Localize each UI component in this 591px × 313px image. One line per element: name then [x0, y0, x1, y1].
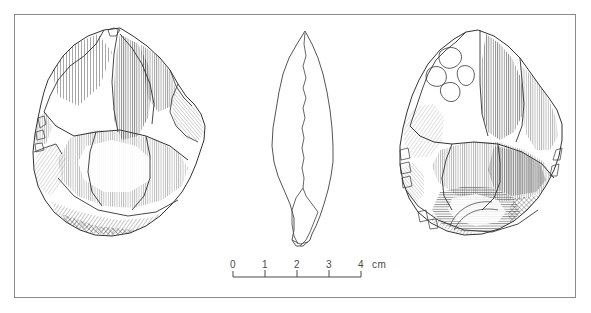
- figure-plate: 0 1 2 3 4 cm: [0, 0, 591, 313]
- scale-unit-label: cm: [372, 259, 386, 270]
- scale-tick-0: 0: [230, 259, 236, 270]
- scale-tick-2: 2: [294, 259, 300, 270]
- scale-tick-1: 1: [262, 259, 268, 270]
- figure-frame-border: [14, 14, 576, 298]
- scale-tick-3: 3: [326, 259, 332, 270]
- scale-tick-4: 4: [358, 259, 364, 270]
